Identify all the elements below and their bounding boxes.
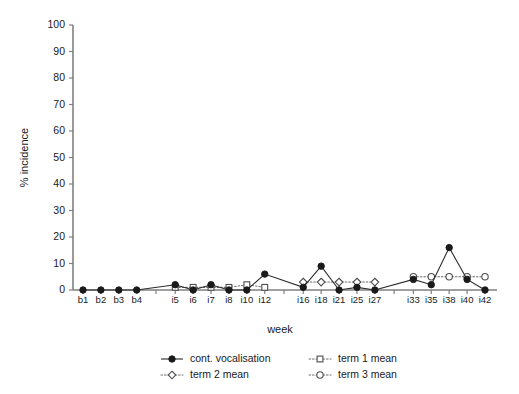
x-tick-label: b2: [96, 294, 107, 305]
x-tick-label: i18: [315, 294, 328, 305]
marker-filled-circle: [190, 287, 196, 293]
marker-open-diamond: [168, 371, 176, 379]
marker-filled-circle: [262, 271, 268, 277]
data-series-group: [80, 244, 488, 293]
y-tick-label: 30: [53, 204, 65, 216]
marker-filled-circle: [208, 282, 214, 288]
x-tick-label: i21: [333, 294, 346, 305]
chart-legend: cont. vocalisationterm 1 meanterm 2 mean…: [161, 352, 397, 380]
marker-open-circle: [482, 274, 488, 280]
x-tick-label: i40: [461, 294, 474, 305]
marker-filled-circle: [169, 356, 175, 362]
series-term-3-mean: [410, 274, 488, 280]
y-axis-title: % incidence: [18, 128, 30, 187]
marker-open-square: [262, 284, 268, 290]
x-tick-label: b3: [114, 294, 125, 305]
y-tick-label: 40: [53, 177, 65, 189]
chart-figure: 0102030405060708090100 b1b2b3b4i5i6i7i8i…: [0, 0, 519, 394]
x-tick-label: i8: [225, 294, 232, 305]
legend-item[interactable]: term 3 mean: [309, 368, 397, 380]
marker-filled-circle: [98, 287, 104, 293]
legend-item[interactable]: cont. vocalisation: [161, 352, 271, 364]
x-tick-label: i5: [172, 294, 179, 305]
marker-filled-circle: [336, 287, 342, 293]
series-cont-vocalisation: [80, 244, 488, 293]
marker-open-diamond: [335, 278, 343, 286]
marker-filled-circle: [464, 276, 470, 282]
x-tick-label: i27: [369, 294, 382, 305]
legend-label: term 3 mean: [338, 368, 397, 380]
x-tick-label: b1: [78, 294, 89, 305]
marker-filled-circle: [410, 276, 416, 282]
x-axis-ticks: b1b2b3b4i5i6i7i8i10i12i16i18i21i25i27i33…: [78, 290, 492, 305]
marker-open-diamond: [371, 278, 379, 286]
legend-item[interactable]: term 1 mean: [309, 352, 397, 364]
y-tick-label: 20: [53, 230, 65, 242]
marker-filled-circle: [428, 282, 434, 288]
x-tick-label: i35: [425, 294, 438, 305]
legend-label: term 1 mean: [338, 352, 397, 364]
legend-item[interactable]: term 2 mean: [161, 368, 249, 380]
series-term-1-mean: [172, 282, 267, 290]
series-line: [83, 248, 485, 290]
marker-open-diamond: [317, 278, 325, 286]
x-tick-label: i10: [241, 294, 254, 305]
x-tick-label: i12: [258, 294, 271, 305]
series-term-2-mean: [299, 278, 378, 286]
y-tick-label: 50: [53, 151, 65, 163]
marker-filled-circle: [116, 287, 122, 293]
x-tick-label: i38: [443, 294, 456, 305]
y-tick-label: 100: [47, 18, 65, 30]
x-tick-label: i7: [207, 294, 214, 305]
marker-filled-circle: [354, 284, 360, 290]
y-tick-label: 60: [53, 124, 65, 136]
x-tick-label: b4: [131, 294, 142, 305]
marker-filled-circle: [244, 287, 250, 293]
legend-label: term 2 mean: [190, 368, 249, 380]
marker-filled-circle: [372, 287, 378, 293]
marker-filled-circle: [446, 244, 452, 250]
legend-label: cont. vocalisation: [190, 352, 271, 364]
marker-filled-circle: [226, 287, 232, 293]
x-tick-label: i6: [189, 294, 196, 305]
x-tick-label: i16: [297, 294, 310, 305]
incidence-line-chart: 0102030405060708090100 b1b2b3b4i5i6i7i8i…: [0, 0, 519, 394]
marker-filled-circle: [172, 282, 178, 288]
y-tick-label: 90: [53, 45, 65, 57]
plot-area: 0102030405060708090100 b1b2b3b4i5i6i7i8i…: [0, 0, 519, 394]
y-tick-label: 0: [59, 283, 65, 295]
y-tick-label: 10: [53, 257, 65, 269]
x-tick-label: i33: [407, 294, 420, 305]
marker-open-circle: [446, 274, 452, 280]
x-tick-label: i42: [479, 294, 492, 305]
y-axis-ticks: 0102030405060708090100: [47, 18, 73, 295]
marker-open-square: [317, 356, 323, 362]
marker-filled-circle: [482, 287, 488, 293]
y-tick-label: 70: [53, 98, 65, 110]
y-tick-label: 80: [53, 71, 65, 83]
x-axis-title: week: [266, 323, 293, 335]
marker-filled-circle: [300, 284, 306, 290]
marker-filled-circle: [318, 263, 324, 269]
marker-filled-circle: [134, 287, 140, 293]
marker-open-circle: [317, 372, 323, 378]
x-tick-label: i25: [351, 294, 364, 305]
marker-filled-circle: [80, 287, 86, 293]
